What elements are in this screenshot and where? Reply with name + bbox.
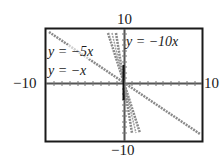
x-min-label: −10: [13, 76, 36, 91]
y-min-label: −10: [111, 143, 134, 158]
label-y-neg-5x: y = −5x: [48, 45, 93, 59]
x-max-label: 10: [204, 76, 219, 91]
label-y-neg-x: y = −x: [48, 64, 86, 78]
y-max-label: 10: [117, 12, 132, 27]
label-y-neg-10x: y = −10x: [126, 35, 178, 49]
